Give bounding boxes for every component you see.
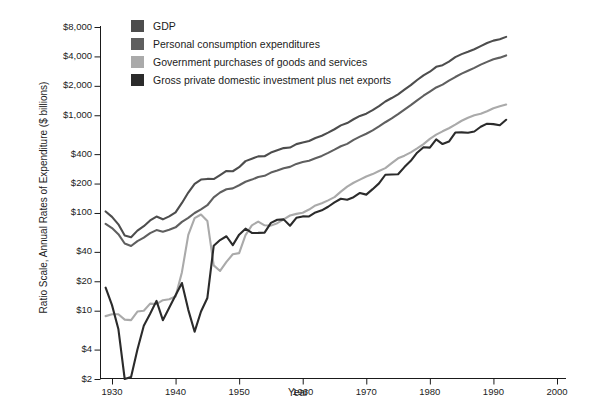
y-axis-title: Ratio Scale, Annual Rates of Expenditure…: [38, 38, 49, 358]
y-tick-label: $20: [20, 276, 92, 286]
legend-item-label: Personal consumption expenditures: [153, 38, 320, 50]
y-tick-label: $400: [20, 149, 92, 159]
series-line-government: [106, 105, 507, 321]
y-tick-label: $40: [20, 246, 92, 256]
legend-item: GDP: [131, 17, 391, 35]
y-tick-label: $4,000: [20, 51, 92, 61]
y-tick-marks: [95, 28, 101, 380]
y-tick-label: $200: [20, 178, 92, 188]
x-axis-title: Year: [0, 387, 596, 398]
legend-item: Personal consumption expenditures: [131, 35, 391, 53]
legend-swatch-icon: [131, 74, 144, 86]
legend-swatch-icon: [131, 56, 144, 68]
series-line-investment: [106, 120, 507, 379]
legend-item: Government purchases of goods and servic…: [131, 53, 391, 71]
legend-swatch-icon: [131, 20, 144, 32]
y-tick-label: $8,000: [20, 22, 92, 32]
y-tick-label: $4: [20, 344, 92, 354]
chart-figure: $8,000$4,000$2,000$1,000$400$200$100$40$…: [0, 0, 596, 413]
legend-item-label: Government purchases of goods and servic…: [153, 56, 367, 68]
y-tick-label: $100: [20, 207, 92, 217]
legend-item-label: Gross private domestic investment plus n…: [153, 74, 391, 86]
chart-legend: GDPPersonal consumption expendituresGove…: [131, 17, 391, 89]
y-tick-label: $2: [20, 374, 92, 384]
y-tick-label: $2,000: [20, 80, 92, 90]
legend-item: Gross private domestic investment plus n…: [131, 71, 391, 89]
x-tick-marks: [113, 379, 558, 385]
y-tick-label: $1,000: [20, 110, 92, 120]
legend-swatch-icon: [131, 38, 144, 50]
legend-item-label: GDP: [153, 20, 176, 32]
y-tick-label: $10: [20, 305, 92, 315]
